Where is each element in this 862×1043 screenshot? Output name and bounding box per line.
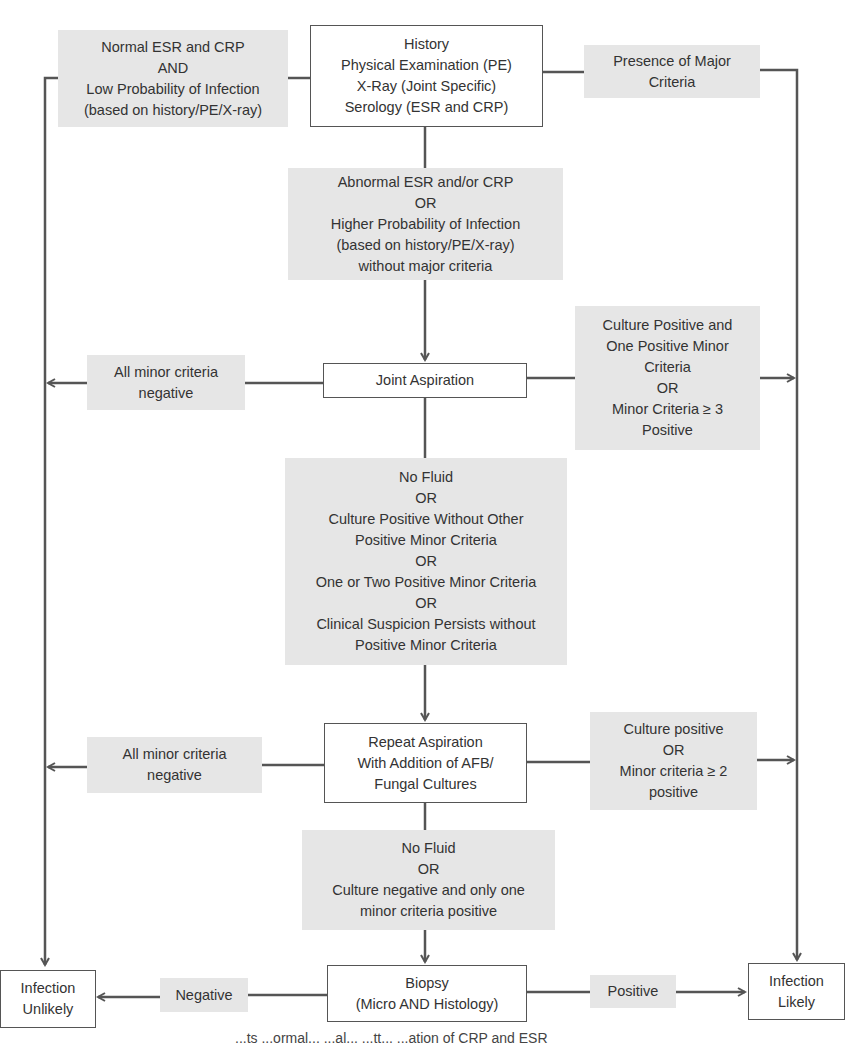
figure-caption-partial: ...ts ...ormal... ...al... ...tt... ...a…: [235, 1030, 548, 1043]
node-text: Serology (ESR and CRP): [345, 97, 509, 118]
joint-aspiration-negative-node: All minor criteria negative: [87, 355, 245, 410]
node-text: Likely: [778, 992, 815, 1013]
node-text: History: [404, 34, 449, 55]
node-text: Criteria: [649, 72, 696, 93]
node-text: All minor criteria: [114, 362, 218, 383]
node-text: negative: [147, 765, 202, 786]
node-text: Normal ESR and CRP: [101, 37, 244, 58]
inconclusive-repeat-node: No Fluid OR Culture negative and only on…: [302, 830, 555, 930]
node-text: (Micro AND Histology): [356, 994, 499, 1015]
node-text: Culture Positive and: [603, 315, 733, 336]
node-text: One Positive Minor: [606, 336, 729, 357]
major-criteria-node: Presence of Major Criteria: [584, 45, 760, 98]
node-text: X-Ray (Joint Specific): [357, 76, 496, 97]
repeat-aspiration-negative-node: All minor criteria negative: [87, 737, 262, 793]
node-text: Negative: [175, 985, 232, 1006]
node-text: Low Probability of Infection: [86, 79, 259, 100]
inconclusive-aspiration-node: No Fluid OR Culture Positive Without Oth…: [285, 458, 567, 665]
node-text: Biopsy: [405, 973, 449, 994]
joint-aspiration-positive-node: Culture Positive and One Positive Minor …: [575, 306, 760, 450]
node-text: All minor criteria: [123, 744, 227, 765]
node-text: AND: [158, 58, 189, 79]
node-text: Repeat Aspiration: [368, 732, 482, 753]
node-text: OR: [415, 593, 437, 614]
node-text: Presence of Major: [613, 51, 731, 72]
node-text: Unlikely: [23, 999, 74, 1020]
node-text: One or Two Positive Minor Criteria: [316, 572, 537, 593]
initial-workup-node: History Physical Examination (PE) X-Ray …: [310, 25, 543, 127]
node-text: OR: [415, 488, 437, 509]
node-text: Higher Probability of Infection: [331, 214, 520, 235]
node-text: Positive Minor Criteria: [355, 635, 497, 656]
node-text: Clinical Suspicion Persists without: [316, 614, 535, 635]
node-text: Culture negative and only one: [332, 880, 525, 901]
node-text: Positive: [608, 981, 659, 1002]
node-text: Positive Minor Criteria: [355, 530, 497, 551]
repeat-aspiration-positive-node: Culture positive OR Minor criteria ≥ 2 p…: [590, 712, 757, 810]
node-text: OR: [663, 740, 685, 761]
node-text: Culture positive: [624, 719, 724, 740]
node-text: Fungal Cultures: [374, 774, 476, 795]
biopsy-negative-node: Negative: [160, 978, 248, 1012]
node-text: Infection: [21, 978, 76, 999]
node-text: OR: [418, 859, 440, 880]
node-text: Abnormal ESR and/or CRP: [338, 172, 514, 193]
node-text: negative: [139, 383, 194, 404]
abnormal-serology-node: Abnormal ESR and/or CRP OR Higher Probab…: [288, 168, 563, 280]
node-text: Culture Positive Without Other: [328, 509, 523, 530]
node-text: OR: [415, 551, 437, 572]
infection-likely-node: Infection Likely: [748, 963, 845, 1020]
node-text: Joint Aspiration: [376, 370, 474, 391]
biopsy-node: Biopsy (Micro AND Histology): [327, 965, 527, 1022]
repeat-aspiration-node: Repeat Aspiration With Addition of AFB/ …: [324, 723, 527, 803]
node-text: (based on history/PE/X-ray): [336, 235, 514, 256]
node-text: (based on history/PE/X-ray): [84, 100, 262, 121]
node-text: Minor criteria ≥ 2: [620, 761, 728, 782]
node-text: Criteria: [644, 357, 691, 378]
node-text: positive: [649, 782, 698, 803]
node-text: Positive: [642, 420, 693, 441]
node-text: With Addition of AFB/: [357, 753, 493, 774]
node-text: Minor Criteria ≥ 3: [612, 399, 723, 420]
node-text: without major criteria: [359, 256, 493, 277]
node-text: Infection: [769, 971, 824, 992]
node-text: No Fluid: [402, 838, 456, 859]
biopsy-positive-node: Positive: [590, 975, 676, 1008]
node-text: minor criteria positive: [360, 901, 497, 922]
node-text: No Fluid: [399, 467, 453, 488]
low-probability-node: Normal ESR and CRP AND Low Probability o…: [58, 30, 288, 127]
node-text: OR: [657, 378, 679, 399]
joint-aspiration-node: Joint Aspiration: [323, 363, 527, 398]
infection-unlikely-node: Infection Unlikely: [0, 970, 96, 1028]
node-text: OR: [415, 193, 437, 214]
node-text: Physical Examination (PE): [341, 55, 512, 76]
